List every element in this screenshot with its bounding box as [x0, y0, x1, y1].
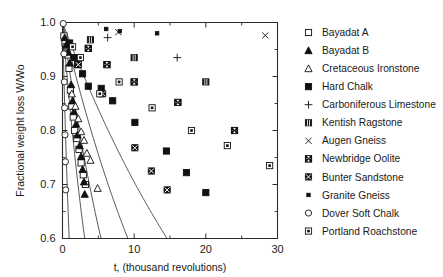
y-tick-label: 0.6: [40, 232, 55, 244]
marker-inner-square: [149, 105, 155, 111]
marker-plus: [173, 54, 181, 62]
marker-x-square: [148, 168, 154, 174]
marker-filled-square: [163, 148, 169, 154]
marker-inner-square: [116, 79, 122, 85]
x-axis-title: t, (thousand revolutions): [114, 261, 227, 273]
chart-figure: 0.60.70.80.91.00102030 t, (thousand revo…: [0, 0, 443, 277]
marker-filled-square: [110, 98, 116, 104]
legend-item-label: Newbridge Oolite: [322, 153, 400, 164]
y-tick-label: 1.0: [40, 16, 55, 28]
marker-small-filled-square: [307, 193, 310, 196]
legend-item-label: Augen Gneiss: [322, 135, 386, 146]
marker-open-triangle: [87, 157, 94, 164]
marker-grid-square: [131, 55, 137, 61]
series-granite-gneiss: [105, 27, 159, 35]
marker-open-triangle: [305, 65, 312, 72]
marker-x-square: [75, 62, 81, 68]
series-augen-gneiss: [115, 29, 268, 38]
marker-open-triangle: [83, 149, 90, 156]
marker-open-circle: [61, 79, 67, 85]
chart-legend: Bayadat ABayadat BCretaceous IronstoneHa…: [305, 27, 437, 237]
marker-x-square: [164, 187, 170, 193]
marker-filled-square: [85, 83, 91, 89]
legend-item-granite-gneiss[interactable]: Granite Gneiss: [307, 190, 390, 201]
legend-item-label: Bayadat B: [322, 45, 369, 56]
marker-small-filled-square: [155, 32, 158, 35]
legend-item-dover-soft-chalk[interactable]: Dover Soft Chalk: [305, 208, 400, 219]
legend-item-label: Portland Roachstone: [322, 226, 417, 237]
marker-inner-square: [224, 143, 230, 149]
x-tick-label: 20: [200, 243, 212, 255]
legend-item-label: Kentish Ragstone: [322, 117, 403, 128]
legend-item-newbridge-oolite[interactable]: Newbridge Oolite: [305, 153, 400, 164]
marker-filled-square: [132, 119, 138, 125]
marker-inner-square: [77, 55, 83, 61]
legend-item-label: Bayadat A: [322, 27, 369, 38]
marker-inner-square: [305, 228, 311, 234]
y-tick-label: 0.8: [40, 124, 55, 136]
marker-grid-square: [305, 120, 311, 126]
legend-item-portland-roachstone[interactable]: Portland Roachstone: [305, 226, 417, 237]
marker-plus: [305, 101, 313, 109]
marker-filled-square: [203, 190, 209, 196]
y-axis-title: Fractional weight loss W/Wo: [14, 64, 26, 196]
legend-item-label: Bunter Sandstone: [322, 172, 404, 183]
legend-item-carboniferous-limestone[interactable]: Carboniferous Limestone: [305, 99, 437, 110]
legend-item-label: Hard Chalk: [322, 81, 374, 92]
series-carboniferous-limestone: [104, 34, 181, 62]
legend-item-bunter-sandstone[interactable]: Bunter Sandstone: [305, 172, 403, 183]
marker-open-circle: [62, 159, 68, 165]
marker-small-filled-square: [105, 27, 108, 30]
x-tick-label: 30: [271, 243, 283, 255]
marker-bowtie: [104, 62, 110, 68]
series-newbridge-oolite: [85, 45, 237, 133]
x-tick-label: 0: [59, 243, 65, 255]
plot-frame: [63, 23, 278, 239]
legend-item-hard-chalk[interactable]: Hard Chalk: [305, 81, 373, 92]
marker-inner-square: [69, 44, 75, 50]
marker-filled-triangle: [81, 191, 88, 198]
marker-open-circle: [305, 210, 311, 216]
y-tick-label: 0.7: [40, 178, 55, 190]
marker-filled-triangle: [68, 81, 75, 88]
marker-bowtie: [85, 45, 91, 51]
legend-item-bayadat-a[interactable]: Bayadat A: [305, 27, 368, 38]
marker-inner-square: [188, 127, 194, 133]
legend-item-label: Dover Soft Chalk: [322, 208, 400, 219]
marker-x-square: [305, 174, 311, 180]
marker-open-circle: [62, 132, 68, 138]
legend-item-cretaceous-ironstone[interactable]: Cretaceous Ironstone: [305, 63, 420, 74]
marker-open-circle: [63, 187, 69, 193]
legend-item-augen-gneiss[interactable]: Augen Gneiss: [305, 135, 386, 146]
marker-filled-triangle: [305, 47, 312, 54]
marker-x-square: [132, 145, 138, 151]
marker-bowtie: [175, 99, 181, 105]
marker-open-triangle: [80, 137, 87, 144]
series-bunter-sandstone: [75, 62, 170, 193]
marker-small-filled-square: [118, 29, 121, 32]
marker-filled-square: [71, 55, 77, 61]
legend-item-bayadat-b[interactable]: Bayadat B: [305, 45, 369, 56]
series-portland-roachstone: [69, 44, 272, 169]
series-hard-chalk: [67, 40, 209, 196]
y-tick-label: 0.9: [40, 70, 55, 82]
legend-item-label: Cretaceous Ironstone: [322, 63, 420, 74]
marker-open-circle: [60, 20, 66, 26]
marker-open-triangle: [78, 128, 85, 135]
legend-item-label: Granite Gneiss: [322, 190, 390, 201]
x-tick-label: 10: [128, 243, 140, 255]
marker-filled-triangle: [79, 166, 86, 173]
legend-item-label: Carboniferous Limestone: [322, 99, 436, 110]
marker-filled-square: [79, 71, 85, 77]
marker-inner-square: [267, 163, 273, 169]
series-kentish-ragstone: [87, 37, 209, 85]
scatter-chart: 0.60.70.80.91.00102030 t, (thousand revo…: [0, 0, 443, 277]
marker-cross: [305, 138, 311, 144]
marker-grid-square: [203, 79, 209, 85]
marker-filled-square: [183, 170, 189, 176]
legend-item-kentish-ragstone[interactable]: Kentish Ragstone: [305, 117, 402, 128]
marker-open-square: [78, 160, 84, 166]
marker-bowtie: [305, 156, 311, 162]
marker-cross: [262, 32, 268, 38]
marker-open-square: [305, 29, 311, 35]
